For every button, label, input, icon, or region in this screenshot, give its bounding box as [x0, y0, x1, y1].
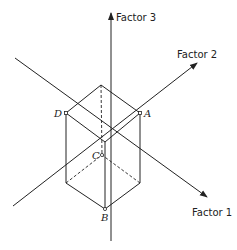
factor2-label: Factor 2 [177, 49, 217, 60]
vertex-label-c: C [92, 150, 100, 161]
axes [13, 13, 207, 241]
vertex-marker-d [65, 112, 68, 115]
vertex-label-d: D [53, 108, 62, 119]
vertex-marker-b [103, 207, 106, 210]
vertex-marker-c [100, 153, 103, 156]
vertex-label-b: B [100, 212, 108, 223]
factor1-label: Factor 1 [192, 207, 232, 218]
vertex-label-a: A [143, 108, 151, 119]
vertex-markers [65, 112, 142, 211]
box-hidden-edges [66, 85, 140, 183]
box-visible-edges [66, 85, 140, 209]
factor-space-diagram: Factor 1 Factor 2 Factor 3 A B C D [0, 0, 237, 250]
vertex-marker-a [139, 112, 142, 115]
factor3-label: Factor 3 [116, 12, 156, 23]
